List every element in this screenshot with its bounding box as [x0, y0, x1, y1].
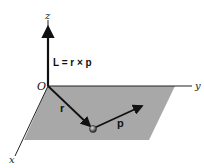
equation-label: L = r × p — [53, 57, 92, 68]
origin-label: O — [37, 80, 46, 93]
p-vector-label: p — [117, 117, 124, 129]
angular-momentum-diagram: z y x O L = r × p r p — [0, 0, 204, 168]
xy-plane — [24, 86, 175, 140]
x-axis-label: x — [9, 154, 15, 165]
particle — [90, 126, 97, 133]
y-axis-label: y — [194, 80, 201, 91]
z-axis-label: z — [44, 10, 51, 21]
r-vector-label: r — [60, 102, 65, 114]
